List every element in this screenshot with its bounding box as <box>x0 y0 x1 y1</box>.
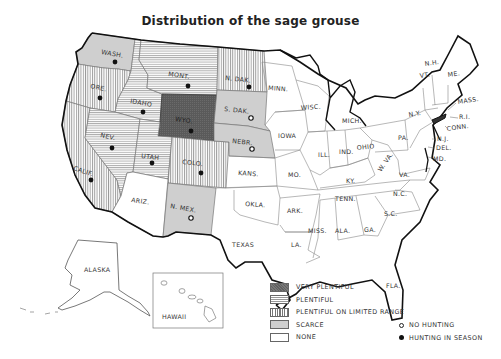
marker-wash-hunting <box>113 60 118 65</box>
label-kans: KANS. <box>238 169 259 177</box>
label-sc: S.C. <box>384 210 398 217</box>
legend-label: PLENTIFUL <box>296 296 334 304</box>
legend-label: PLENTIFUL ON LIMITED RANGE <box>296 308 404 316</box>
label-alaska: ALASKA <box>84 266 111 273</box>
label-ny: N.Y. <box>408 109 422 118</box>
state-n-dak <box>217 47 267 92</box>
filled-circle-icon <box>399 335 404 340</box>
swatch-plentiful <box>270 295 289 304</box>
marker-colo-hunting <box>199 171 204 176</box>
label-tenn: TENN. <box>334 195 356 202</box>
label-ala: ALA. <box>335 227 350 234</box>
label-ohio: OHIO <box>356 142 374 151</box>
label-w-va: W. VA. <box>376 151 394 173</box>
label-texas: TEXAS <box>231 241 254 248</box>
legend-none: NONE <box>270 331 404 344</box>
label-ky: KY. <box>346 177 355 184</box>
label-nh: N.H. <box>424 58 439 67</box>
swatch-scarce <box>270 320 289 329</box>
label-iowa: IOWA <box>278 132 297 139</box>
legend-no-hunting: NO HUNTING <box>399 319 483 332</box>
label-minn: MINN. <box>268 84 289 92</box>
label-nc: N.C. <box>393 190 407 197</box>
label-mo: MO. <box>288 171 301 178</box>
label-miss: MISS. <box>308 227 327 234</box>
legend-label: HUNTING IN SEASON <box>409 334 483 342</box>
marker-calif-hunting <box>89 178 94 183</box>
label-ind: IND. <box>339 148 354 155</box>
marker-mont-hunting <box>186 84 191 89</box>
label-mich: MICH. <box>342 117 362 124</box>
label-ga: GA. <box>364 226 376 233</box>
legend-very-plentiful: VERY PLENTIFUL <box>270 281 404 294</box>
swatch-limited-range <box>270 308 289 317</box>
marker-ore-hunting <box>98 96 103 101</box>
swatch-very-plentiful <box>270 283 289 292</box>
label-md: MD. <box>433 155 446 162</box>
marker-n-mex-no-hunting <box>189 216 193 220</box>
legend-hunting-in-season: HUNTING IN SEASON <box>399 332 483 345</box>
label-me: ME. <box>447 69 460 78</box>
legend-scarce: SCARCE <box>270 319 404 332</box>
label-pa: PA. <box>398 134 409 141</box>
marker-utah-hunting <box>150 161 155 166</box>
swatch-none <box>270 333 289 342</box>
legend-limited-range: PLENTIFUL ON LIMITED RANGE <box>270 306 404 319</box>
legend-label: NO HUNTING <box>409 321 455 329</box>
label-va: VA. <box>399 171 410 178</box>
long-island <box>432 114 446 124</box>
us-map: WASH. ORE. CALIF. IDAHO NEV. MONT. WYO. … <box>0 0 501 359</box>
aleutian-islands <box>20 308 58 314</box>
marker-nev-hunting <box>110 146 115 151</box>
label-ri: R.I. <box>459 113 470 120</box>
label-okla: OKLA. <box>245 200 266 208</box>
marker-wyo-hunting <box>189 129 194 134</box>
label-ark: ARK. <box>287 207 303 214</box>
label-ill: ILL. <box>318 151 330 158</box>
label-wisc: WISC. <box>301 103 321 111</box>
hunting-legend: NO HUNTING HUNTING IN SEASON <box>399 319 483 344</box>
legend-label: NONE <box>296 333 316 341</box>
label-vt: VT. <box>419 71 430 79</box>
marker-idaho-hunting <box>141 110 146 115</box>
legend-label: VERY PLENTIFUL <box>296 283 354 291</box>
open-circle-icon <box>399 323 404 328</box>
label-la: LA. <box>291 241 302 248</box>
marker-n-dak-hunting <box>247 85 252 90</box>
label-hawaii: HAWAII <box>162 313 186 320</box>
legend: VERY PLENTIFUL PLENTIFUL PLENTIFUL ON LI… <box>270 281 404 344</box>
legend-plentiful: PLENTIFUL <box>270 294 404 307</box>
marker-nebr-no-hunting <box>250 147 254 151</box>
label-nj: N.J. <box>437 135 449 143</box>
alaska-outline <box>58 240 150 316</box>
marker-s-dak-no-hunting <box>249 116 253 120</box>
label-conn: CONN. <box>446 122 469 132</box>
legend-label: SCARCE <box>296 321 324 329</box>
label-del: DEL. <box>436 144 452 151</box>
state-mont <box>139 40 218 95</box>
